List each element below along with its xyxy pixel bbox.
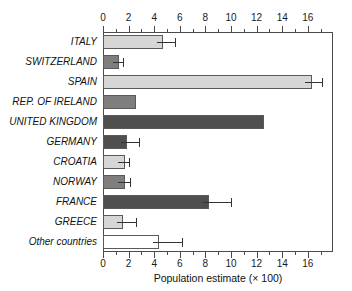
- error-bar-line-8: [203, 202, 231, 203]
- x-axis-tick-label-top-6: 6: [168, 12, 192, 23]
- x-axis-tick-top-3: [141, 29, 142, 32]
- x-axis-tick-top-16: [308, 26, 309, 32]
- error-bar-cap-1: [123, 58, 124, 67]
- x-axis-tick-bot-1: [116, 252, 117, 255]
- x-axis-tick-top-2: [129, 26, 130, 32]
- x-axis-tick-label-bot-14: 14: [270, 258, 294, 269]
- x-axis-tick-top-13: [269, 29, 270, 32]
- category-label-croatia: CROATIA: [0, 156, 97, 168]
- x-axis-tick-bot-17: [321, 252, 322, 255]
- bar-united-kingdom: [103, 115, 264, 129]
- x-axis-tick-label-bot-0: 0: [91, 258, 115, 269]
- error-bar-cap-8: [231, 198, 232, 207]
- x-axis-tick-bot-9: [218, 252, 219, 255]
- x-axis-tick-top-6: [180, 26, 181, 32]
- x-axis-tick-label-top-12: 12: [245, 12, 269, 23]
- population-estimate-bar-chart: 00224466881010121214141616ITALYSWITZERLA…: [0, 0, 352, 291]
- category-label-greece: GREECE: [0, 216, 97, 228]
- x-axis-tick-label-bot-16: 16: [296, 258, 320, 269]
- x-axis-tick-label-top-2: 2: [117, 12, 141, 23]
- x-axis-tick-top-0: [103, 26, 104, 32]
- bar-other-countries: [103, 235, 159, 249]
- x-axis-tick-label-bot-12: 12: [245, 258, 269, 269]
- category-label-switzerland: SWITZERLAND: [0, 56, 97, 68]
- error-bar-cap-5: [139, 138, 140, 147]
- x-axis-title: Population estimate (× 100): [103, 272, 333, 284]
- x-axis-tick-bot-3: [141, 252, 142, 255]
- category-label-france: FRANCE: [0, 196, 97, 208]
- x-axis-tick-top-12: [257, 26, 258, 32]
- x-axis-tick-bot-15: [295, 252, 296, 255]
- error-bar-line-10: [153, 242, 182, 243]
- x-axis-tick-bot-11: [244, 252, 245, 255]
- error-bar-line-9: [117, 222, 136, 223]
- x-axis-tick-top-11: [244, 29, 245, 32]
- error-bar-cap-10: [182, 238, 183, 247]
- x-axis-tick-top-14: [282, 26, 283, 32]
- category-label-italy: ITALY: [0, 36, 97, 48]
- x-axis-tick-label-top-14: 14: [270, 12, 294, 23]
- category-label-spain: SPAIN: [0, 76, 97, 88]
- category-label-other-countries: Other countries: [0, 236, 97, 248]
- error-bar-cap-7: [130, 178, 131, 187]
- x-axis-tick-bot-13: [269, 252, 270, 255]
- x-axis-tick-top-1: [116, 29, 117, 32]
- x-axis-tick-label-top-4: 4: [142, 12, 166, 23]
- x-axis-tick-label-top-8: 8: [193, 12, 217, 23]
- x-axis-tick-label-bot-6: 6: [168, 258, 192, 269]
- x-axis-tick-label-bot-2: 2: [117, 258, 141, 269]
- x-axis-tick-top-15: [295, 29, 296, 32]
- error-bar-line-1: [113, 62, 123, 63]
- error-bar-cap-9: [136, 218, 137, 227]
- error-bar-cap-0: [175, 38, 176, 47]
- x-axis-tick-top-10: [231, 26, 232, 32]
- x-axis-tick-label-top-16: 16: [296, 12, 320, 23]
- x-axis-tick-label-bot-8: 8: [193, 258, 217, 269]
- x-axis-tick-top-5: [167, 29, 168, 32]
- x-axis-tick-top-4: [154, 26, 155, 32]
- category-label-norway: NORWAY: [0, 176, 97, 188]
- error-bar-line-7: [118, 182, 130, 183]
- x-axis-tick-label-top-10: 10: [219, 12, 243, 23]
- bar-rep-of-ireland: [103, 95, 136, 109]
- x-axis-tick-label-top-0: 0: [91, 12, 115, 23]
- bar-italy: [103, 35, 163, 49]
- error-bar-line-6: [118, 162, 128, 163]
- error-bar-cap-6: [129, 158, 130, 167]
- x-axis-tick-top-17: [321, 29, 322, 32]
- category-label-rep-of-ireland: REP. OF IRELAND: [0, 96, 97, 108]
- error-bar-line-2: [305, 82, 322, 83]
- category-label-germany: GERMANY: [0, 136, 97, 148]
- error-bar-line-0: [157, 42, 175, 43]
- bar-france: [103, 195, 209, 209]
- x-axis-tick-label-bot-10: 10: [219, 258, 243, 269]
- x-axis-tick-bot-7: [193, 252, 194, 255]
- x-axis-tick-top-7: [193, 29, 194, 32]
- x-axis-tick-top-8: [205, 26, 206, 32]
- error-bar-line-5: [121, 142, 139, 143]
- x-axis-tick-label-bot-4: 4: [142, 258, 166, 269]
- category-label-united-kingdom: UNITED KINGDOM: [0, 116, 97, 128]
- error-bar-cap-2: [322, 78, 323, 87]
- x-axis-tick-bot-5: [167, 252, 168, 255]
- x-axis-tick-top-9: [218, 29, 219, 32]
- bar-spain: [103, 75, 312, 89]
